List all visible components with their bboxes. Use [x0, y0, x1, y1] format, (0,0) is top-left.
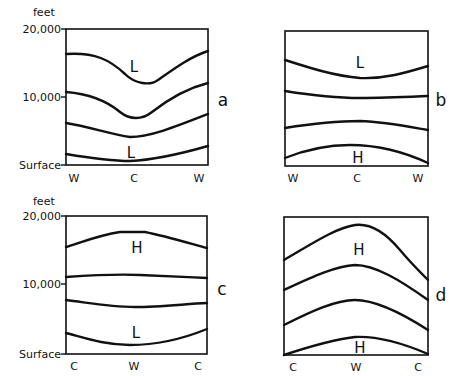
- x-label-center: C: [353, 172, 361, 185]
- x-label-right: C: [194, 360, 202, 373]
- x-label-right: C: [414, 361, 422, 374]
- high-pressure-label: H: [131, 239, 142, 257]
- panel-letter: a: [218, 90, 228, 110]
- circulation-diagram: feet 20,000 10,000 Surface L L a W C W L…: [0, 0, 454, 376]
- x-label-left: C: [289, 361, 297, 374]
- x-label-center: C: [130, 172, 138, 185]
- high-pressure-label: H: [354, 339, 365, 357]
- x-label-left: W: [288, 172, 299, 185]
- x-label-right: W: [413, 172, 424, 185]
- y-tick-20000: 20,000: [23, 23, 62, 36]
- x-label-center: W: [351, 361, 362, 374]
- y-tick-10000: 10,000: [23, 278, 62, 291]
- y-axis-unit-label: feet: [33, 6, 55, 19]
- x-label-right: W: [194, 172, 205, 185]
- pressure-surface-curve: [66, 83, 208, 118]
- panel-d: H H d C W C: [284, 217, 446, 374]
- pressure-surface-curve: [66, 300, 207, 307]
- x-label-left: W: [69, 172, 80, 185]
- pressure-surface-curve: [284, 265, 428, 300]
- panel-b: L H b W C W: [285, 31, 446, 185]
- x-label-center: W: [129, 360, 140, 373]
- pressure-surface-curve: [66, 275, 207, 278]
- panel-letter: c: [217, 279, 226, 299]
- pressure-surface-curve: [285, 121, 428, 130]
- high-pressure-label: H: [352, 149, 363, 167]
- low-pressure-label: L: [356, 54, 365, 72]
- low-pressure-label: L: [132, 324, 141, 342]
- low-pressure-label: L: [130, 58, 139, 76]
- panel-frame: [66, 29, 208, 165]
- pressure-surface-curve: [66, 146, 208, 161]
- y-tick-10000: 10,000: [23, 91, 62, 104]
- y-tick-20000: 20,000: [23, 210, 62, 223]
- y-tick-surface: Surface: [19, 159, 61, 172]
- panel-a: feet 20,000 10,000 Surface L L a W C W: [19, 6, 228, 185]
- y-tick-surface: Surface: [19, 348, 61, 361]
- pressure-surface-curve: [284, 300, 428, 330]
- pressure-surface-curve: [285, 91, 428, 98]
- high-pressure-label: H: [353, 241, 364, 259]
- low-pressure-label: L: [127, 144, 136, 162]
- panel-letter: b: [436, 90, 447, 110]
- panel-c: feet 20,000 10,000 Surface H L c C W C: [19, 195, 227, 373]
- y-axis-unit-label: feet: [33, 195, 55, 208]
- panel-letter: d: [436, 285, 447, 305]
- x-label-left: C: [70, 360, 78, 373]
